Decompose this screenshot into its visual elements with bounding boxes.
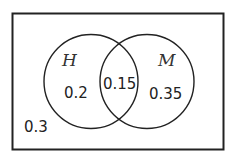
set-h-only-value: 0.2 (64, 84, 88, 102)
intersection-value: 0.15 (103, 75, 136, 93)
outside-value: 0.3 (24, 118, 48, 136)
set-h-label: H (61, 50, 78, 70)
set-m-label: M (157, 50, 176, 70)
venn-diagram: H M 0.2 0.15 0.35 0.3 (0, 0, 233, 152)
set-m-only-value: 0.35 (149, 85, 182, 103)
